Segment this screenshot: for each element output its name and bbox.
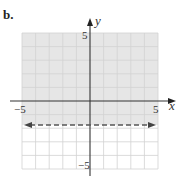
y-axis-arrow-icon [87,18,93,26]
x-axis-label: x [169,99,175,112]
y-min-tick-label: −5 [78,160,90,171]
y-max-tick-label: 5 [82,30,88,41]
y-axis-label: y [95,14,101,27]
x-min-tick-label: −5 [14,104,26,115]
x-max-tick-label: 5 [153,104,159,115]
coordinate-plane [0,0,184,182]
